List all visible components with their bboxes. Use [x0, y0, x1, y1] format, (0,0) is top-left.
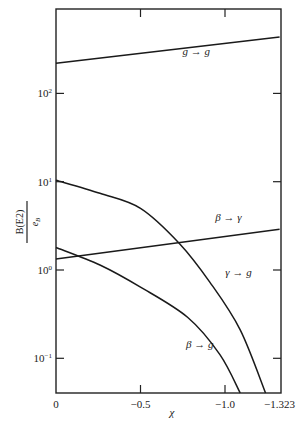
y-label-denominator: eB [29, 217, 42, 226]
x-tick-label: −1.0 [215, 398, 235, 410]
y-tick-label: 10−1 [34, 352, 53, 364]
x-tick-label: 0 [53, 398, 59, 410]
x-axis-label: χ [169, 406, 176, 418]
chart-svg: 0−0.5−1.0−1.32310210110010−1 g → gβ → γγ… [0, 0, 302, 427]
y-tick-label: 102 [38, 87, 53, 99]
curve-label: γ → g [225, 266, 252, 278]
series-g-g [56, 37, 280, 63]
plot-border [56, 9, 281, 393]
y-tick-label: 100 [38, 264, 53, 276]
series-beta-gamma [56, 229, 280, 259]
axis-ticks: 0−0.5−1.0−1.32310210110010−1 [34, 9, 296, 410]
curve-label: β → γ [214, 211, 242, 223]
y-label-numerator: B(E2) [14, 210, 26, 234]
x-tick-label: −1.323 [264, 398, 295, 410]
y-tick-label: 101 [38, 176, 53, 188]
curve-labels: g → gβ → γγ → gβ → g [183, 45, 253, 350]
plot-frame [56, 9, 281, 393]
curve-label: β → g [185, 338, 214, 350]
curve-label: g → g [183, 45, 211, 57]
y-axis-label: B(E2) eB [14, 201, 42, 243]
y-label-denominator-sub: B [34, 217, 42, 222]
curves [56, 37, 280, 393]
series-beta-g [56, 247, 240, 393]
x-tick-label: −0.5 [131, 398, 151, 410]
